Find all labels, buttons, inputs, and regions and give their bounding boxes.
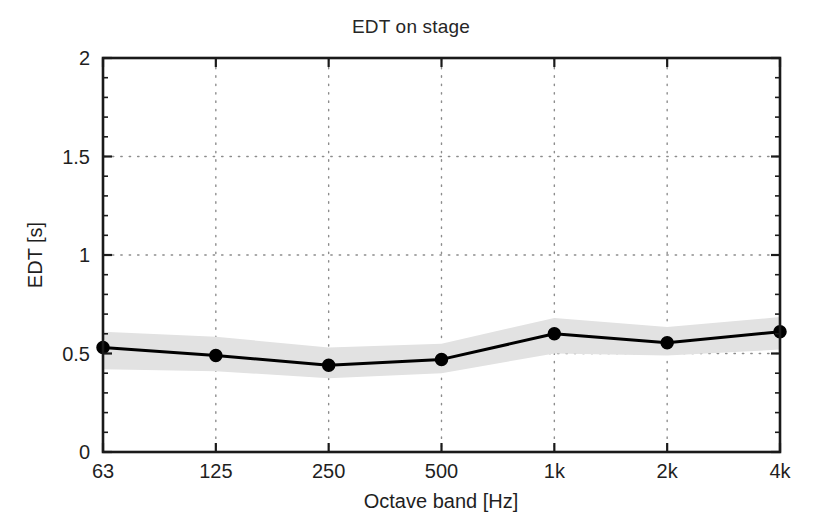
x-axis-tick-labels: 631252505001k2k4k <box>92 460 792 482</box>
x-tick-label: 500 <box>425 460 458 482</box>
y-axis-title: EDT [s] <box>24 222 46 288</box>
y-tick-label: 0 <box>79 441 90 463</box>
y-tick-label: 0.5 <box>62 343 90 365</box>
y-tick-label: 1 <box>79 244 90 266</box>
y-tick-label: 1.5 <box>62 146 90 168</box>
x-axis-title: Octave band [Hz] <box>364 490 519 512</box>
x-tick-label: 2k <box>657 460 679 482</box>
y-tick-label: 2 <box>79 47 90 69</box>
y-axis-tick-labels: 00.511.52 <box>62 47 90 463</box>
chart-plot-area: 00.511.52 631252505001k2k4k EDT [s] Octa… <box>0 0 822 523</box>
x-tick-label: 4k <box>769 460 791 482</box>
x-tick-label: 125 <box>199 460 232 482</box>
x-tick-label: 250 <box>312 460 345 482</box>
figure-canvas: EDT on stage 00.511.52 631252505001k2k4k… <box>0 0 822 523</box>
x-tick-label: 1k <box>544 460 566 482</box>
x-tick-label: 63 <box>92 460 114 482</box>
